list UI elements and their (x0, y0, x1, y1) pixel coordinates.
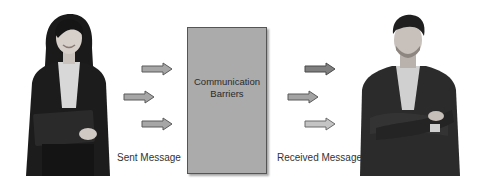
sent-arrow-middle (123, 90, 155, 108)
barrier-line-2: Barriers (188, 88, 266, 100)
barrier-box-text: Communication Barriers (188, 76, 266, 100)
woman-with-clipboard-icon (18, 8, 118, 178)
arrow-right-icon (123, 90, 155, 104)
sent-message-label: Sent Message (117, 152, 181, 163)
sender-figure (18, 8, 118, 178)
arrow-right-icon (141, 62, 173, 76)
sent-arrow-top (141, 62, 173, 80)
arrow-right-icon (304, 117, 336, 131)
arrow-right-icon (304, 62, 336, 76)
receiver-figure (356, 10, 462, 178)
received-arrow-top (304, 62, 336, 80)
barrier-line-1: Communication (188, 76, 266, 88)
arrow-right-icon (287, 90, 319, 104)
man-arms-crossed-icon (356, 10, 462, 178)
sent-arrow-bottom (141, 117, 173, 135)
received-arrow-middle (287, 90, 319, 108)
arrow-right-icon (141, 117, 173, 131)
received-arrow-bottom (304, 117, 336, 135)
communication-barriers-box: Communication Barriers (187, 27, 267, 174)
received-message-label: Received Message (277, 152, 362, 163)
